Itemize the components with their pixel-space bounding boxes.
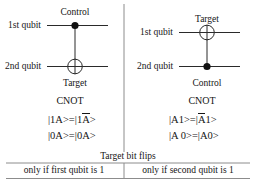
left-equation-1: |1A>=|1A> xyxy=(48,113,96,126)
left-control-label: Control xyxy=(60,8,89,18)
left-qubit1-label: 1st qubit xyxy=(8,21,41,31)
right-control-label: Control xyxy=(192,79,221,89)
right-eq1-rhs-post: 1> xyxy=(205,115,216,126)
right-qubit1-label: 1st qubit xyxy=(140,28,173,38)
left-eq2-rhs-pre: |0A xyxy=(75,131,90,142)
right-caption: only if second qubit is 1 xyxy=(142,166,234,176)
right-eq2-lhs: |A 0> xyxy=(169,131,192,142)
left-equation-2: |0A>= |0A> xyxy=(48,131,96,142)
cnot-figure: Control 1st qubit 2nd qubit Target CNOT … xyxy=(0,0,255,190)
left-eq1-rhs-post: > xyxy=(90,115,96,126)
left-qubit2-label: 2nd qubit xyxy=(5,62,41,72)
right-control-dot-icon xyxy=(203,63,210,70)
right-qubit2-label: 2nd qubit xyxy=(137,62,173,72)
left-gate-name: CNOT xyxy=(56,96,83,106)
left-eq1-rhs-overline: A xyxy=(82,113,90,125)
right-equation-1: |A1>=|A1> xyxy=(169,113,217,126)
right-target-label: Target xyxy=(195,15,219,25)
left-control-dot-icon xyxy=(71,22,78,29)
right-eq2-rhs-pre: |A0 xyxy=(198,131,213,142)
right-gate-name: CNOT xyxy=(188,96,215,106)
right-eq2-rhs-post: > xyxy=(213,131,219,142)
right-eq1-lhs: |A1> xyxy=(169,115,190,126)
left-caption: only if first qubit is 1 xyxy=(24,166,105,176)
right-equation-2: |A 0>= |A0> xyxy=(169,131,219,142)
right-eq1-rhs-overline: A xyxy=(198,113,206,125)
left-eq1-rhs-pre: |1 xyxy=(75,115,82,126)
left-eq2-lhs: |0A> xyxy=(48,131,69,142)
left-eq1-lhs: |1A> xyxy=(48,115,69,126)
left-eq2-rhs-post: > xyxy=(90,131,96,142)
shared-caption: Target bit flips xyxy=(100,152,156,162)
left-target-label: Target xyxy=(63,79,87,89)
